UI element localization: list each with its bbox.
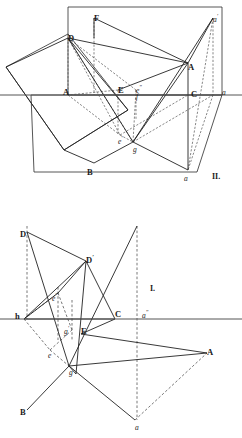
point-label-A-upper: A	[188, 63, 194, 72]
upper-hidden-segment-3	[188, 95, 213, 170]
point-label-C: C	[191, 90, 197, 99]
point-label-D: D	[68, 34, 74, 43]
point-label-B-upper: B	[87, 168, 93, 177]
point-label-a-prime-prime-mark: ′	[217, 13, 218, 19]
point-label-E-lower: E	[81, 327, 87, 336]
technical-drawing-figure: FDa′AAECae″fe′gBaII. DD′I.e″hg′ECa″eAgBa	[0, 0, 242, 438]
lower-orthographic-panel	[0, 226, 242, 420]
point-label-g-upper: g	[133, 146, 137, 154]
lower-hidden-segment-5	[24, 319, 50, 350]
upper-hidden-segment-14	[120, 95, 188, 135]
point-label-g-prime: g′	[64, 325, 69, 335]
point-label-E: E	[118, 86, 124, 95]
lower-visible-segment-8	[27, 366, 69, 410]
lower-visible-segment-11	[69, 226, 137, 366]
lower-visible-segment-0	[27, 232, 86, 261]
upper-visible-segment-15	[118, 63, 188, 90]
geometry-canvas	[0, 0, 242, 438]
lower-visible-segment-7	[81, 334, 207, 353]
lower-hidden-lines	[24, 226, 207, 420]
lower-visible-segment-9	[69, 353, 207, 366]
point-label-g-lower: g	[69, 369, 73, 377]
point-label-D-prime-prime-mark: ′	[92, 254, 94, 260]
point-label-h: h	[15, 312, 20, 321]
upper-visible-segment-0	[94, 18, 188, 63]
point-label-a-prime: a′	[213, 13, 218, 23]
point-label-a-bottom: a	[135, 424, 139, 432]
lower-visible-segment-12	[58, 261, 86, 293]
point-label-C-lower: C	[115, 310, 121, 319]
point-label-D-lower: D	[20, 230, 26, 239]
point-label-f-upper: f	[136, 93, 138, 101]
upper-hidden-segment-4	[68, 38, 136, 90]
upper-visible-segment-10	[6, 67, 64, 150]
panel-label-I: I.	[150, 285, 155, 293]
lower-visible-segment-5	[86, 261, 115, 319]
panel-label-II: II.	[212, 173, 220, 181]
point-label-e-dprime-lower-prime-mark: ″	[55, 292, 58, 298]
upper-visible-lines	[6, 18, 213, 170]
upper-visible-segment-6	[94, 142, 133, 163]
point-label-e-prime: e′	[118, 135, 123, 145]
lower-visible-segment-2	[24, 261, 86, 319]
upper-visible-segment-9	[6, 38, 68, 67]
upper-visible-segment-3	[133, 63, 188, 142]
point-label-e-lower: e	[48, 352, 51, 360]
lower-visible-segment-10	[69, 366, 135, 420]
lower-hidden-segment-9	[135, 353, 207, 420]
lower-visible-lines	[24, 226, 207, 420]
point-label-A-ground: A	[63, 88, 69, 97]
upper-visible-segment-5	[133, 142, 188, 170]
point-label-a-dprime-prime-mark: ″	[146, 309, 149, 315]
point-label-g-prime-prime-mark: ′	[68, 325, 69, 331]
upper-hidden-segment-7	[68, 90, 118, 95]
point-label-e-dprime-lower: e″	[52, 292, 58, 302]
point-label-e-prime-prime-mark: ′	[121, 135, 122, 141]
point-label-a-ground: a	[222, 89, 226, 97]
lower-visible-segment-1	[27, 232, 69, 366]
lower-visible-segment-3	[76, 261, 86, 374]
point-label-A-lower: A	[207, 348, 213, 357]
upper-hidden-segment-13	[68, 95, 120, 135]
point-label-a-lower-upper: a	[184, 175, 188, 183]
upper-hidden-segment-15	[133, 95, 213, 142]
point-label-e-dprime-prime-mark: ″	[139, 84, 142, 90]
point-label-D-prime: D′	[86, 254, 94, 264]
point-label-a-dprime: a″	[142, 309, 148, 319]
point-label-F: F	[94, 14, 99, 23]
upper-visible-segment-7	[64, 150, 94, 163]
point-label-B-lower: B	[20, 408, 26, 417]
